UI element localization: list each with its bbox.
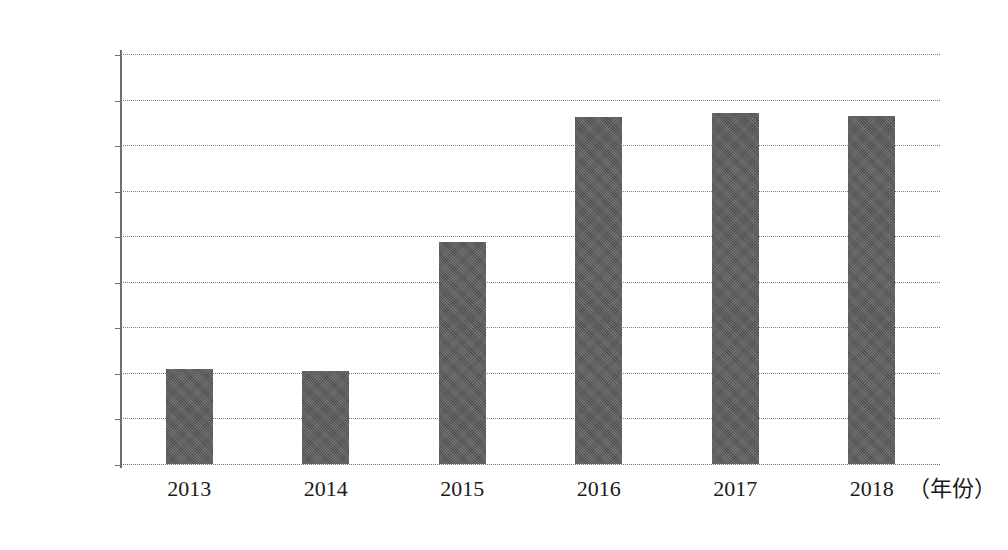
x-axis-tick-label-2015: 2015 [412,478,512,500]
x-axis-title: （年份） [908,478,996,500]
x-axis-tick-label-2018: 2018 [822,478,922,500]
x-axis-tick-label-2017: 2017 [685,478,785,500]
bar-2014 [302,371,349,464]
bar-2016 [575,117,622,464]
bar-2018 [848,116,895,464]
x-axis-tick-label-2016: 2016 [549,478,649,500]
y-axis-tick-mark [115,465,121,466]
bar-chart-figure: 0500010000150002000025000300003500040000… [0,0,1008,550]
plot-area [121,54,940,464]
x-axis-tick-label-2013: 2013 [139,478,239,500]
bars-group [121,54,940,464]
bar-2013 [166,369,213,464]
gridline [121,464,940,465]
bar-2015 [439,242,486,464]
x-axis-tick-label-2014: 2014 [276,478,376,500]
bar-2017 [712,113,759,464]
